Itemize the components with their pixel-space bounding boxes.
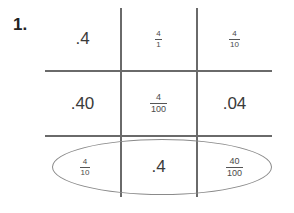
numerator: 4 xyxy=(155,93,162,103)
grid-cell-r1c3: 4 10 xyxy=(197,8,272,70)
problem-number: 1. xyxy=(13,15,27,35)
grid-cell-r1c1: .4 xyxy=(45,8,120,70)
winning-row-circle xyxy=(52,139,272,195)
grid-cell-r2c2: 4 100 xyxy=(121,72,196,135)
numerator: 4 xyxy=(231,30,237,39)
grid-cell-r1c2: 4 1 xyxy=(121,8,196,70)
grid-cell-r2c3: .04 xyxy=(197,72,272,135)
decimal-value: .04 xyxy=(223,94,247,114)
grid-cell-r2c1: .40 xyxy=(45,72,120,135)
fraction-value: 4 10 xyxy=(229,30,240,49)
fraction-value: 4 1 xyxy=(155,30,161,49)
fraction-value: 4 100 xyxy=(150,93,167,114)
denominator: 1 xyxy=(155,39,161,49)
numerator: 4 xyxy=(155,30,161,39)
decimal-value: .40 xyxy=(71,94,95,114)
denominator: 10 xyxy=(229,39,240,49)
denominator: 100 xyxy=(150,103,167,114)
decimal-value: .4 xyxy=(75,29,89,49)
